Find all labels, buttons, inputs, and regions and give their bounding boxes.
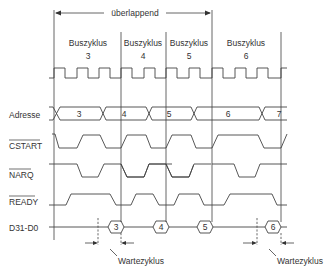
cycle-6-number: 6 bbox=[244, 51, 249, 61]
timing-diagram: überlappend Buszyklus 3 Buszyklus 4 Busz… bbox=[0, 0, 327, 275]
address-value-7: 7 bbox=[277, 109, 282, 119]
label-adresse: Adresse bbox=[9, 110, 40, 120]
wait-label-1: Wartezyklus bbox=[118, 256, 164, 266]
label-narq: NARQ bbox=[9, 170, 34, 180]
cycle-6-title: Buszyklus bbox=[227, 38, 265, 48]
address-bus: 3 4 5 6 7 bbox=[49, 107, 287, 120]
cycle-headers: Buszyklus 3 Buszyklus 4 Buszyklus 5 Busz… bbox=[69, 38, 265, 61]
narq-waveform bbox=[49, 164, 287, 177]
wait-label-2: Wartezyklus bbox=[277, 256, 323, 266]
overlap-label: überlappend bbox=[111, 8, 159, 18]
overlap-arrow: überlappend bbox=[55, 8, 211, 18]
wait-cycle-annotation-2: Wartezyklus bbox=[243, 218, 323, 266]
address-value-5: 5 bbox=[167, 109, 172, 119]
label-d31-d0: D31-D0 bbox=[9, 223, 39, 233]
address-value-6: 6 bbox=[226, 109, 231, 119]
data-value-5: 5 bbox=[203, 222, 208, 232]
narq-waveform-cycle5 bbox=[166, 164, 212, 177]
ready-waveform bbox=[49, 194, 287, 205]
data-bus: 3 4 5 6 bbox=[49, 221, 287, 233]
cstart-waveform bbox=[52, 134, 287, 148]
cycle-5-number: 5 bbox=[187, 51, 192, 61]
signal-labels: Adresse CSTART NARQ READY D31-D0 bbox=[9, 110, 42, 233]
data-value-6: 6 bbox=[271, 222, 276, 232]
address-value-4: 4 bbox=[122, 109, 127, 119]
cycle-3-number: 3 bbox=[86, 51, 91, 61]
cycle-4-number: 4 bbox=[141, 51, 146, 61]
cycle-4-title: Buszyklus bbox=[124, 38, 162, 48]
cycle-3-title: Buszyklus bbox=[69, 38, 107, 48]
label-cstart: CSTART bbox=[9, 141, 42, 151]
data-value-4: 4 bbox=[159, 222, 164, 232]
narq-waveform-cycle4 bbox=[121, 164, 166, 177]
data-value-3: 3 bbox=[114, 222, 119, 232]
wait-cycle-annotation-1: Wartezyklus bbox=[85, 218, 164, 266]
address-value-3: 3 bbox=[77, 109, 82, 119]
cycle-5-title: Buszyklus bbox=[170, 38, 208, 48]
clock-waveform bbox=[49, 68, 287, 78]
label-ready: READY bbox=[9, 197, 39, 207]
